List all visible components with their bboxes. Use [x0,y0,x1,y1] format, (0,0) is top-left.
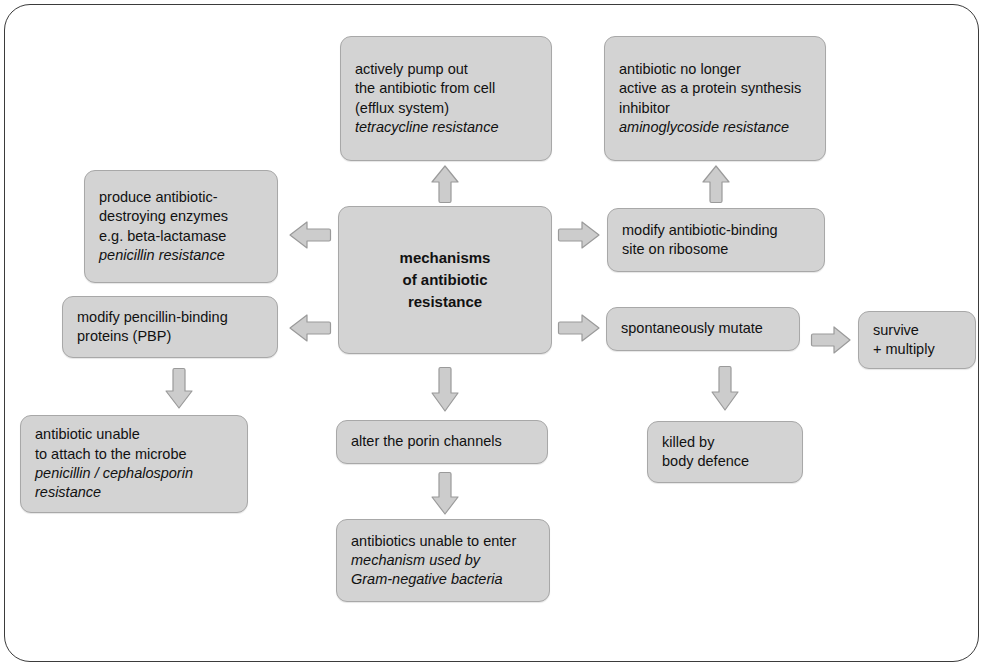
node-line-emphasis: Gram-negative bacteria [351,570,503,589]
node-line-emphasis: mechanism used by [351,551,480,570]
node-line: killed by [662,433,714,452]
node-line: alter the porin channels [351,432,502,451]
node-killed-by-body-defence[interactable]: killed by body defence [647,421,803,483]
node-line: mechanisms [400,247,491,269]
node-protein-synthesis-inhibition-loss[interactable]: antibiotic no longer active as a protein… [604,36,826,161]
node-line-emphasis: penicillin resistance [99,246,225,265]
node-line-emphasis: tetracycline resistance [355,118,498,137]
node-line: body defence [662,452,749,471]
node-line: modify pencillin-binding [77,308,228,327]
node-line: + multiply [873,340,935,359]
node-line: destroying enzymes [99,207,228,226]
node-line: antibiotics unable to enter [351,532,516,551]
node-line: produce antibiotic- [99,188,218,207]
node-mechanisms-of-antibiotic-resistance[interactable]: mechanisms of antibiotic resistance [338,206,552,354]
arrow-mutate-to-killed-icon [709,364,741,412]
node-line: proteins (PBP) [77,327,171,346]
node-modify-penicillin-binding-proteins[interactable]: modify pencillin-binding proteins (PBP) [62,296,278,358]
arrow-center-to-mutate-icon [557,312,601,344]
node-line: resistance [408,291,482,313]
arrow-ribosome-to-aminoglycoside-icon [700,164,732,204]
node-antibiotic-unable-to-attach[interactable]: antibiotic unable to attach to the micro… [20,415,248,513]
arrow-pbp-to-unable-attach-icon [163,366,195,410]
node-line-emphasis: aminoglycoside resistance [619,118,789,137]
node-line: antibiotic unable [35,425,140,444]
node-line: antibiotic no longer [619,60,741,79]
node-survive-and-multiply[interactable]: survive + multiply [858,311,976,369]
node-line-emphasis: penicillin / cephalosporin [35,464,193,483]
arrow-porin-to-unable-enter-icon [429,470,461,516]
node-line: active as a protein synthesis [619,79,801,98]
node-modify-ribosome-binding-site[interactable]: modify antibiotic-binding site on riboso… [607,208,825,272]
node-line: to attach to the microbe [35,445,187,464]
node-spontaneously-mutate[interactable]: spontaneously mutate [606,307,800,351]
node-line: inhibitor [619,99,670,118]
node-line: survive [873,321,919,340]
arrow-mutate-to-survive-icon [810,324,852,356]
arrow-center-to-ribosome-icon [557,219,601,251]
node-line-emphasis: resistance [35,483,101,502]
node-line: modify antibiotic-binding [622,221,778,240]
arrow-center-to-efflux-icon [429,164,461,204]
node-line: of antibiotic [403,269,488,291]
arrow-center-to-porin-icon [429,365,461,413]
node-line: site on ribosome [622,240,728,259]
node-line: e.g. beta-lactamase [99,227,226,246]
arrow-center-to-pbp-icon [288,312,332,344]
arrow-center-to-enzymes-icon [288,219,332,251]
node-antibiotics-unable-to-enter[interactable]: antibiotics unable to enter mechanism us… [336,519,550,602]
node-line: actively pump out [355,60,468,79]
node-line: the antibiotic from cell [355,79,495,98]
node-line: spontaneously mutate [621,319,763,338]
node-alter-porin-channels[interactable]: alter the porin channels [336,420,548,464]
node-line: (efflux system) [355,99,449,118]
node-antibiotic-destroying-enzymes[interactable]: produce antibiotic- destroying enzymes e… [84,170,278,283]
node-efflux-pump[interactable]: actively pump out the antibiotic from ce… [340,36,552,161]
